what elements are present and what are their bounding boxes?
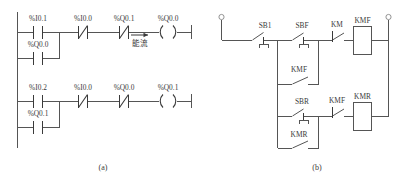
power-flow-annotation: 能流 (131, 33, 148, 48)
contact-kmr-seal[interactable]: KMR (278, 130, 319, 148)
coil-q01-label: %Q0.1 (158, 83, 179, 92)
coil-kmr-label: KMR (354, 92, 371, 101)
coil-kmr[interactable]: KMR (354, 92, 389, 131)
contact-q00-seal[interactable]: %Q0.0 (28, 40, 49, 65)
contact-km[interactable]: KM (331, 20, 353, 42)
relay-circuit: SB1 SBF KM KMF (219, 14, 391, 172)
right-terminal (386, 14, 391, 19)
contact-kmr-seal-label: KMR (291, 130, 308, 139)
contact-i02[interactable]: %I0.2 (29, 83, 47, 108)
rung2-branch: %Q0.1 (18, 101, 60, 134)
pushbutton-sb1[interactable]: SB1 (253, 21, 278, 48)
figure-container: %I0.1 %I0.0 %Q0.1 %Q0.0 (0, 0, 405, 185)
pushbutton-sbf[interactable]: SBF (285, 21, 318, 48)
coil-kmf-label: KMF (354, 16, 370, 25)
coil-q01[interactable]: %Q0.1 (158, 83, 179, 108)
contact-i00-r1[interactable]: %I0.0 (74, 14, 92, 39)
pushbutton-sb1-label: SB1 (259, 21, 272, 30)
contact-i00-r1-label: %I0.0 (74, 14, 92, 23)
coil-kmf[interactable]: KMF (354, 16, 389, 55)
left-terminal (219, 14, 224, 19)
contact-kmf-interlock[interactable]: KMF (329, 96, 353, 118)
coil-q00-label: %Q0.0 (158, 14, 179, 23)
caption-a: (a) (99, 163, 108, 172)
power-flow-label: 能流 (132, 38, 148, 48)
rung-2: %I0.2 %I0.0 %Q0.0 %Q0.1 (18, 83, 193, 134)
contact-q01-seal-label: %Q0.1 (28, 109, 49, 118)
contact-km-label: KM (331, 20, 343, 29)
ladder-diagram: %I0.1 %I0.0 %Q0.1 %Q0.0 (18, 12, 193, 172)
contact-i02-label: %I0.2 (29, 83, 47, 92)
rung-1: %I0.1 %I0.0 %Q0.1 %Q0.0 (18, 14, 193, 65)
pushbutton-sbf-label: SBF (295, 21, 308, 30)
contact-kmf-seal[interactable]: KMF (278, 65, 319, 84)
contact-q00-r2-label: %Q0.0 (114, 83, 135, 92)
contact-i01-label: %I0.1 (29, 14, 47, 23)
contact-q00-r2[interactable]: %Q0.0 (114, 83, 135, 108)
contact-q01-seal[interactable]: %Q0.1 (28, 109, 49, 134)
contact-kmf-interlock-label: KMF (329, 96, 345, 105)
contact-i00-r2-label: %I0.0 (74, 83, 92, 92)
contact-i01[interactable]: %I0.1 (29, 14, 47, 39)
caption-b: (b) (312, 163, 322, 172)
contact-q00-seal-label: %Q0.0 (28, 40, 49, 49)
contact-q01-r1-label: %Q0.1 (114, 14, 135, 23)
contact-kmf-seal-label: KMF (291, 65, 307, 74)
rung1-branch: %Q0.0 (18, 32, 60, 65)
coil-q00[interactable]: %Q0.0 (158, 14, 179, 39)
contact-i00-r2[interactable]: %I0.0 (74, 83, 92, 108)
pushbutton-sbr[interactable]: SBR (278, 97, 319, 124)
pushbutton-sbr-label: SBR (295, 97, 309, 106)
